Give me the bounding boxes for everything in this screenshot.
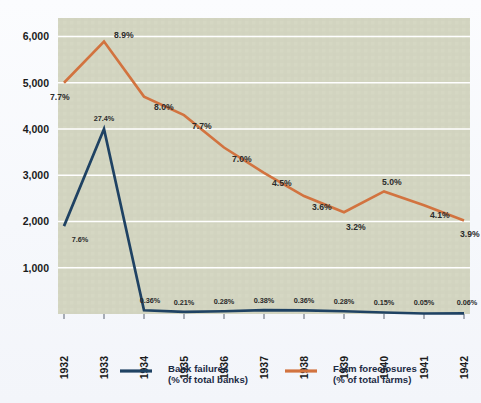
data-label-farm-foreclosures: 8.0% [154,102,174,112]
data-label-farm-foreclosures: 4.5% [272,178,292,188]
data-label-farm-foreclosures: 7.0% [232,154,252,164]
y-axis-tick-label: 5,000 [23,77,49,89]
data-label-farm-foreclosures: 3.6% [312,202,332,212]
y-axis-tick-label: 2,000 [23,215,49,227]
data-label-farm-foreclosures: 3.9% [460,229,480,239]
y-axis-tick-label: 6,000 [23,30,49,42]
data-label-bank-failures: 0.38% [254,296,275,305]
data-label-bank-failures: 0.36% [294,296,315,305]
data-label-bank-failures: 0.05% [414,298,435,307]
legend-label: Farm foreclosures [333,363,417,374]
legend-label: Bank failures [168,363,228,374]
chart-figure: 1,0002,0003,0004,0005,0006,000 193219331… [0,0,481,403]
data-label-farm-foreclosures: 8.9% [114,30,134,40]
data-label-bank-failures: 27.4% [94,114,115,123]
x-axis-tick-label: 1937 [258,356,270,380]
y-axis-tick-label: 1,000 [23,262,49,274]
data-label-bank-failures: 0.15% [374,298,395,307]
data-label-farm-foreclosures: 3.2% [346,222,366,232]
data-label-bank-failures: 0.06% [457,298,478,307]
x-axis-tick-label: 1938 [298,356,310,380]
x-axis-tick-label: 1933 [98,356,110,380]
x-axis-tick-label: 1932 [58,356,70,380]
data-label-farm-foreclosures: 4.1% [430,210,450,220]
y-axis-tick-label: 3,000 [23,169,49,181]
x-axis-tick-label: 1942 [458,356,470,380]
data-label-farm-foreclosures: 7.7% [50,92,70,102]
x-axis-tick-marks [64,314,464,319]
data-label-bank-failures: 7.6% [72,235,89,244]
y-axis-tick-labels: 1,0002,0003,0004,0005,0006,000 [23,30,49,273]
data-label-bank-failures: 0.28% [334,297,355,306]
legend-sublabel: (% of total banks) [168,374,248,385]
data-label-farm-foreclosures: 5.0% [382,177,402,187]
y-axis-tick-label: 4,000 [23,123,49,135]
data-label-bank-failures: 0.36% [140,296,161,305]
line-chart: 1,0002,0003,0004,0005,0006,000 193219331… [0,0,481,403]
legend-sublabel: (% of total farms) [333,374,411,385]
data-label-bank-failures: 0.21% [174,298,195,307]
data-label-farm-foreclosures: 7.7% [192,121,212,131]
x-axis-tick-label: 1941 [418,356,430,380]
data-label-bank-failures: 0.28% [214,297,235,306]
x-axis-tick-label: 1934 [138,356,150,380]
